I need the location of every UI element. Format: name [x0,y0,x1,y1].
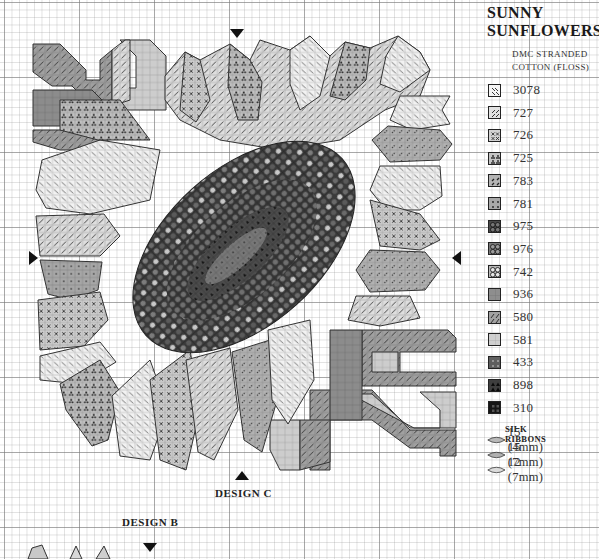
symbol-cross-x-icon [488,129,501,142]
thread-code: 936 [513,286,533,302]
symbol-four-dots-icon [488,197,501,210]
symbol-slashes-icon [488,311,501,324]
symbol-dark-dotted-icon [488,356,501,369]
symbol-dark-triangles-icon [488,379,501,392]
legend-item-976: 976 [487,241,533,257]
symbol-four-circles-mid-icon [488,242,501,255]
legend-item-581: 581 [487,332,533,348]
symbol-four-circles-dark-icon [488,220,501,233]
legend-item-310: 310 [487,400,533,416]
symbol-solid-mid-icon [488,288,501,301]
legend-item-433: 433 [487,354,533,370]
ribbon-item: 12 (7mm) [487,463,549,477]
thread-code: 742 [513,264,533,280]
symbol-dots-diagonal-pairs-icon [488,174,501,187]
legend-item-975: 975 [487,218,533,234]
thread-code: 310 [513,400,533,416]
thread-code: 727 [513,105,533,121]
design-b-center-marker [143,543,157,552]
legend-item-781: 781 [487,196,533,212]
legend-item-783: 783 [487,173,533,189]
legend-item-936: 936 [487,286,533,302]
legend-item-742: 742 [487,264,533,280]
ribbon-label: 12 (7mm) [508,455,549,485]
legend-item-725: 725 [487,150,533,166]
thread-code: 976 [513,241,533,257]
symbol-diagonal-dashes-icon [488,106,501,119]
center-marker-top [230,29,244,38]
legend-item-727: 727 [487,105,533,121]
legend-item-898: 898 [487,377,533,393]
ribbon-leaf-icon [487,449,506,461]
design-b-partial [28,545,110,559]
legend-item-726: 726 [487,127,533,143]
symbol-solid-light-icon [488,333,501,346]
legend-subtitle: DMC STRANDED COTTON (FLOSS) [512,48,599,74]
thread-code: 433 [513,354,533,370]
thread-code: 726 [513,127,533,143]
thread-code: 898 [513,377,533,393]
thread-code: 725 [513,150,533,166]
legend: SUNNY SUNFLOWERS DMC STRANDED COTTON (FL… [487,4,599,81]
legend-item-3078: 3078 [487,82,540,98]
center-marker-left [29,251,38,265]
thread-code: 580 [513,309,533,325]
symbol-four-circles-light-icon [488,265,501,278]
symbol-black-squares-icon [488,401,501,414]
legend-title: SUNNY SUNFLOWERS [487,4,599,40]
ribbon-leaf-icon [487,434,506,446]
center-marker-bottom [235,471,249,480]
ribbon-leaf-icon [487,464,506,476]
thread-code: 3078 [513,82,540,98]
legend-item-580: 580 [487,309,533,325]
thread-code: 975 [513,218,533,234]
symbol-diagonal-dashes-light-icon [488,84,501,97]
center-marker-right [452,251,461,265]
petals-right [348,96,452,326]
design-b-label: DESIGN B [122,516,178,528]
design-c-label: DESIGN C [215,487,272,499]
thread-code: 581 [513,332,533,348]
symbol-clover-triangles-icon [488,152,501,165]
thread-code: 781 [513,196,533,212]
thread-code: 783 [513,173,533,189]
